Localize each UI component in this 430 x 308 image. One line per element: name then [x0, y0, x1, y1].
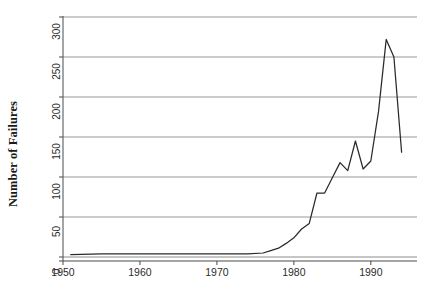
data-series-line	[71, 39, 402, 254]
chart-figure: Number of Failures 050100150200250300 19…	[0, 0, 430, 308]
plot-area	[0, 0, 430, 308]
axes	[59, 16, 417, 261]
gridlines	[63, 17, 417, 257]
tick-marks	[59, 17, 371, 265]
